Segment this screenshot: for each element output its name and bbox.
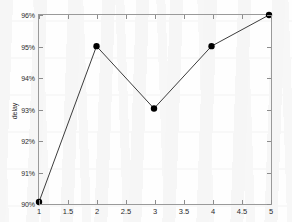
y-tick-label: 95% [21,43,35,50]
x-tick-bottom [184,200,185,204]
y-tick-left [39,47,43,48]
plot-area: 90%91%92%93%94%95%96%11.522.533.544.55 [38,14,272,205]
y-tick-label: 92% [21,138,35,145]
x-tick-label: 2 [95,207,99,216]
x-tick-top [68,15,69,19]
x-tick-top [126,15,127,19]
x-tick-top [155,15,156,19]
y-tick-right [267,110,271,111]
y-tick-label: 93% [21,106,35,113]
x-tick-top [97,15,98,19]
x-tick-top [213,15,214,19]
x-tick-top [271,15,272,19]
x-tick-top [242,15,243,19]
data-point-marker [208,43,214,49]
x-tick-bottom [242,200,243,204]
y-tick-right [267,173,271,174]
x-tick-label: 3.5 [179,207,189,216]
data-point-marker [93,43,99,49]
x-tick-bottom [126,200,127,204]
y-tick-left [39,204,43,205]
y-tick-right [267,47,271,48]
x-tick-bottom [155,200,156,204]
x-tick-bottom [97,200,98,204]
y-tick-right [267,78,271,79]
y-tick-label: 96% [21,12,35,19]
x-tick-top [184,15,185,19]
y-tick-left [39,78,43,79]
x-tick-bottom [68,200,69,204]
y-tick-left [39,141,43,142]
x-tick-label: 4.5 [237,207,247,216]
y-tick-left [39,173,43,174]
data-point-marker [151,105,157,111]
x-tick-label: 1 [37,207,41,216]
data-series-line [39,15,271,204]
x-tick-label: 4 [211,207,215,216]
x-tick-bottom [213,200,214,204]
y-tick-label: 91% [21,169,35,176]
x-tick-label: 1.5 [63,207,73,216]
y-tick-right [267,204,271,205]
chart-figure: delay 90%91%92%93%94%95%96%11.522.533.54… [0,0,292,222]
x-tick-bottom [39,200,40,204]
x-tick-label: 3 [153,207,157,216]
x-tick-label: 2.5 [121,207,131,216]
series-markers [36,12,272,205]
y-tick-label: 90% [21,201,35,208]
x-tick-label: 5 [269,207,273,216]
y-tick-right [267,141,271,142]
x-tick-top [39,15,40,19]
y-axis-title: delay [11,103,18,120]
x-tick-bottom [271,200,272,204]
y-tick-left [39,110,43,111]
y-tick-label: 94% [21,75,35,82]
